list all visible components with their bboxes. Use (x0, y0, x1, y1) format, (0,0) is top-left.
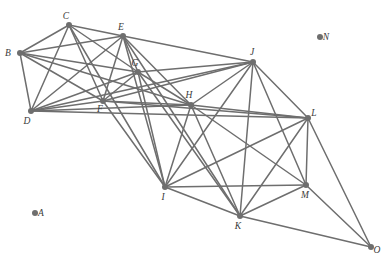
graph-node-label-g: G (132, 58, 139, 68)
graph-node-label-o: O (374, 245, 381, 255)
graph-node-label-a: A (37, 208, 44, 218)
graph-edge-l-o (308, 118, 371, 247)
graph-edge-l-m (306, 118, 308, 185)
label-layer: ABCDEFGHIJKLMNO (5, 11, 380, 255)
graph-canvas: ABCDEFGHIJKLMNO (0, 0, 391, 263)
graph-node-e[interactable] (120, 33, 126, 39)
graph-edge-k-o (240, 216, 371, 247)
graph-edge-h-i (165, 105, 191, 187)
graph-node-label-m: M (300, 190, 310, 200)
graph-node-b[interactable] (17, 50, 23, 56)
graph-node-label-f: F (96, 104, 103, 114)
graph-node-k[interactable] (237, 213, 243, 219)
graph-edge-c-d (31, 25, 69, 111)
graph-node-m[interactable] (303, 182, 309, 188)
graph-node-label-b: B (5, 48, 11, 58)
graph-node-label-e: E (117, 22, 124, 32)
graph-edge-i-m (165, 185, 306, 187)
graph-edge-m-o (306, 185, 371, 247)
graph-node-a[interactable] (32, 210, 38, 216)
graph-edge-g-i (138, 72, 165, 187)
graph-node-d[interactable] (28, 108, 34, 114)
graph-figure: ABCDEFGHIJKLMNO (0, 0, 391, 263)
graph-node-h[interactable] (188, 102, 194, 108)
graph-node-c[interactable] (66, 22, 72, 28)
graph-node-l[interactable] (305, 115, 311, 121)
graph-node-label-i: I (160, 192, 165, 202)
graph-node-g[interactable] (135, 69, 141, 75)
graph-edge-b-d (20, 53, 31, 111)
graph-node-label-d: D (23, 116, 31, 126)
graph-edge-e-i (123, 36, 165, 187)
graph-edge-i-l (165, 118, 308, 187)
graph-node-label-h: H (185, 90, 194, 100)
graph-edge-j-k (240, 62, 253, 216)
graph-node-label-k: K (234, 221, 242, 231)
graph-edge-e-j (123, 36, 253, 62)
edge-layer (20, 25, 371, 247)
graph-node-label-c: C (63, 11, 70, 21)
node-layer (17, 22, 374, 250)
graph-edge-j-l (253, 62, 308, 118)
graph-node-label-l: L (310, 108, 316, 118)
graph-node-i[interactable] (162, 184, 168, 190)
graph-node-label-j: J (250, 47, 255, 57)
graph-node-label-n: N (322, 32, 330, 42)
graph-node-j[interactable] (250, 59, 256, 65)
